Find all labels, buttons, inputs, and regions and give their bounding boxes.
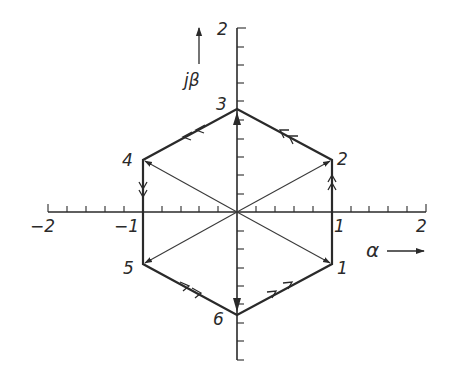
alpha-axis-label: α (366, 238, 424, 262)
vertex-label-3: 3 (216, 94, 227, 114)
y-tick-label-pos2: 2 (217, 19, 228, 39)
x-tick-label-neg1: −1 (114, 216, 139, 236)
vector-2 (237, 161, 330, 212)
jbeta-axis-label: jβ (182, 28, 200, 90)
vector-3-arrowhead (233, 112, 241, 125)
alpha-text: α (366, 238, 379, 262)
vector-6-arrowhead (233, 298, 241, 312)
vector-4 (145, 161, 237, 212)
x-tick-label-pos1: 1 (334, 216, 345, 236)
vertex-label-4: 4 (122, 150, 133, 170)
jbeta-text: jβ (182, 70, 200, 90)
space-vector-hexagon-diagram: −2 −1 1 2 2 α jβ 1 2 3 4 5 6 (0, 0, 451, 374)
vertex-label-5: 5 (123, 258, 134, 278)
vertex-label-6: 6 (213, 309, 224, 329)
x-tick-label-neg2: −2 (30, 216, 55, 236)
vector-5 (145, 212, 237, 263)
vertex-label-1: 1 (337, 258, 348, 278)
vertex-label-2: 2 (337, 149, 348, 169)
x-tick-label-pos2: 2 (416, 216, 427, 236)
vector-1 (237, 212, 330, 263)
